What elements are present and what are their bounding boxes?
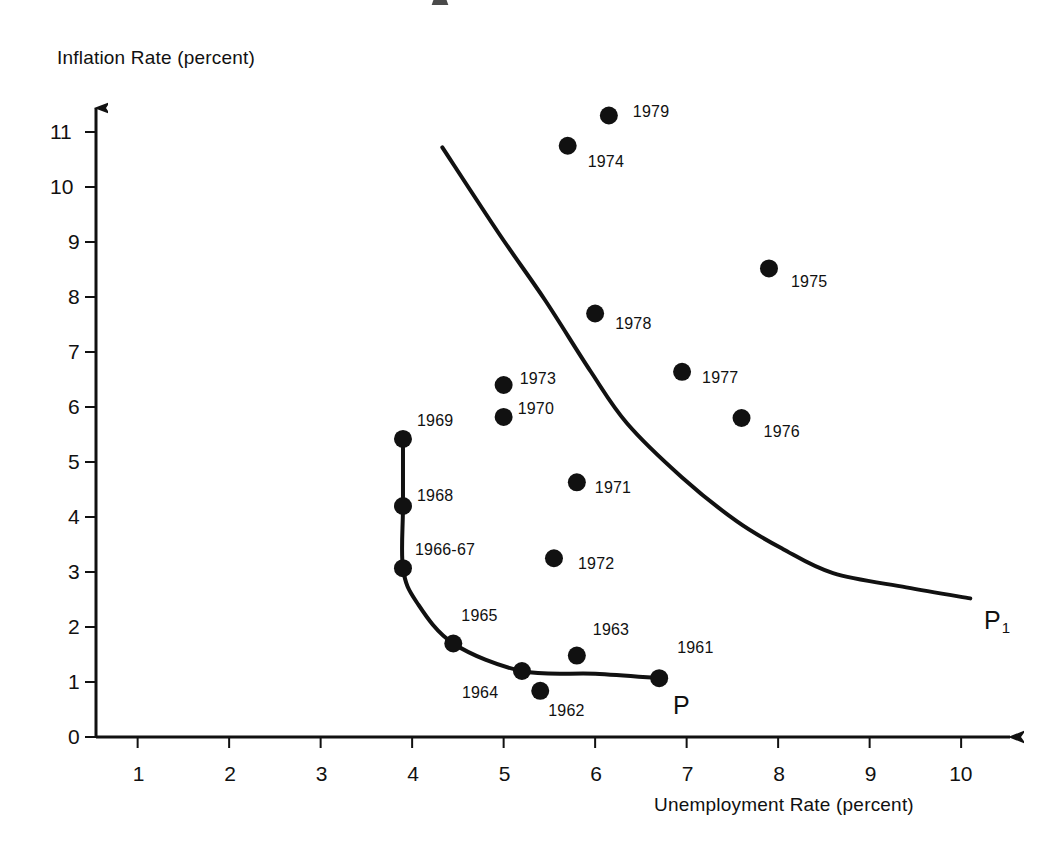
y-tick-label: 4: [68, 506, 80, 527]
y-tick-label: 7: [68, 341, 80, 362]
curve-label-subscript: 1: [1001, 619, 1010, 636]
plot-area: [0, 0, 1061, 862]
y-tick-label: 10: [50, 176, 73, 197]
data-point: [568, 647, 586, 665]
y-tick-label: 5: [68, 451, 80, 472]
data-point-label: 1964: [462, 685, 498, 701]
axis-lines: [96, 108, 1010, 737]
data-point-label: 1962: [548, 703, 584, 719]
data-point: [733, 409, 751, 427]
y-axis-ticks: [85, 132, 96, 737]
data-point: [600, 107, 618, 125]
data-point: [586, 305, 604, 323]
x-tick-label: 1: [133, 763, 145, 784]
data-point-label: 1975: [791, 274, 827, 290]
data-point: [394, 559, 412, 577]
y-tick-label: 0: [68, 726, 80, 747]
data-point-label: 1972: [578, 556, 614, 572]
y-tick-label: 9: [68, 231, 80, 252]
data-point-label: 1963: [593, 622, 629, 638]
data-point-label: 1976: [764, 424, 800, 440]
data-point-label: 1978: [615, 316, 651, 332]
data-point-label: 1965: [461, 608, 497, 624]
data-point-label: 1969: [417, 413, 453, 429]
curve-label-P: P: [673, 693, 690, 718]
data-point: [559, 137, 577, 155]
data-point: [394, 497, 412, 515]
y-tick-label: 11: [50, 121, 72, 142]
phillips-curve-chart: Inflation Rate (percent) Unemployment Ra…: [0, 0, 1061, 862]
data-point-group: [394, 107, 778, 700]
data-point: [531, 682, 549, 700]
data-point-label: 1966-67: [415, 542, 475, 558]
data-point-label: 1974: [588, 154, 624, 170]
x-tick-label: 5: [499, 763, 511, 784]
data-point-label: 1968: [417, 488, 453, 504]
data-point-label: 1973: [520, 371, 556, 387]
data-point-label: 1979: [633, 104, 669, 120]
data-point-label: 1971: [595, 480, 631, 496]
curve-P: [402, 439, 659, 678]
data-point: [673, 363, 691, 381]
data-point-label: 1961: [677, 640, 713, 656]
curve-label-P1: P1: [984, 608, 1010, 635]
data-point: [495, 408, 513, 426]
x-tick-label: 4: [407, 763, 419, 784]
data-point: [513, 662, 531, 680]
data-point: [495, 376, 513, 394]
x-tick-label: 8: [773, 763, 785, 784]
y-tick-label: 1: [68, 671, 80, 692]
y-tick-label: 2: [68, 616, 80, 637]
y-tick-label: 6: [68, 396, 80, 417]
x-tick-label: 6: [590, 763, 602, 784]
x-tick-label: 3: [316, 763, 328, 784]
x-tick-label: 9: [865, 763, 877, 784]
data-point: [444, 635, 462, 653]
data-point: [568, 473, 586, 491]
x-tick-label: 10: [949, 763, 972, 784]
data-point-label: 1977: [702, 370, 738, 386]
x-tick-label: 7: [682, 763, 694, 784]
data-point: [760, 259, 778, 277]
data-point-label: 1970: [518, 401, 554, 417]
y-tick-label: 3: [68, 561, 80, 582]
y-tick-label: 8: [68, 286, 80, 307]
x-axis-ticks: [138, 737, 962, 748]
data-point: [545, 549, 563, 567]
x-tick-label: 2: [224, 763, 236, 784]
curve-group: [402, 147, 970, 678]
data-point: [650, 669, 668, 687]
data-point: [394, 430, 412, 448]
